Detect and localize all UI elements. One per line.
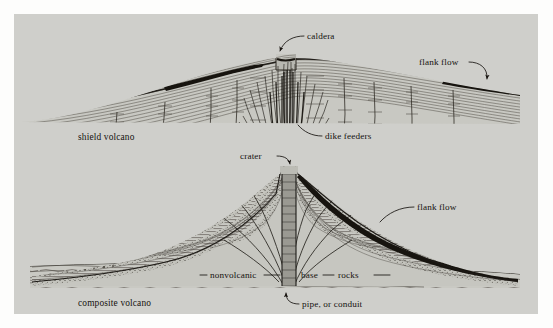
label-pipe-or-conduit-leader xyxy=(286,293,299,304)
shield-volcano-caption: shield volcano xyxy=(78,132,135,142)
composite-volcano-caption: composite volcano xyxy=(78,298,151,308)
label-flank-flow-shield-text: flank flow xyxy=(419,57,459,67)
label-dike-feeders-leader xyxy=(298,125,322,136)
composite-cone-layers xyxy=(14,154,538,294)
label-base-text: base xyxy=(301,270,318,280)
label-crater: crater xyxy=(240,151,290,164)
label-crater-text: crater xyxy=(240,151,262,161)
composite-volcano-cross-section: composite volcano crater flank flow nonv… xyxy=(14,151,538,309)
shield-volcano-cross-section: shield volcano caldera flank flow dike f… xyxy=(14,31,538,155)
label-crater-leader xyxy=(277,156,290,164)
label-flank-flow-shield-leader xyxy=(469,62,487,79)
label-caldera-text: caldera xyxy=(307,31,335,41)
label-pipe-or-conduit-text: pipe, or conduit xyxy=(302,299,363,309)
summit-crater xyxy=(277,161,301,174)
label-flank-flow-shield: flank flow xyxy=(419,57,487,79)
label-flank-flow-composite-text: flank flow xyxy=(417,202,457,212)
figure-root: shield volcano caldera flank flow dike f… xyxy=(0,0,553,328)
figure-panel: shield volcano caldera flank flow dike f… xyxy=(14,14,538,314)
label-caldera: caldera xyxy=(280,31,335,51)
label-flank-flow-composite: flank flow xyxy=(380,202,457,222)
central-conduit xyxy=(282,164,296,289)
volcano-cross-section-diagram: shield volcano caldera flank flow dike f… xyxy=(14,14,538,314)
label-flank-flow-composite-leader xyxy=(380,207,414,222)
label-dike-feeders: dike feeders xyxy=(298,125,372,141)
label-dike-feeders-text: dike feeders xyxy=(325,131,372,141)
label-nonvolcanic-text: nonvolcanic xyxy=(210,270,257,280)
label-caldera-leader xyxy=(280,36,304,51)
label-pipe-or-conduit: pipe, or conduit xyxy=(286,293,363,309)
label-rocks-text: rocks xyxy=(338,270,359,280)
